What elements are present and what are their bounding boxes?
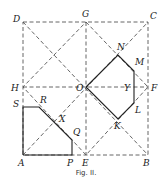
label-Y: Y: [124, 83, 131, 93]
label-C: C: [150, 11, 157, 21]
label-E: E: [81, 158, 89, 168]
label-O: O: [76, 83, 84, 93]
label-F: F: [150, 83, 158, 93]
label-R: R: [39, 95, 47, 105]
label-N: N: [116, 42, 126, 52]
label-L: L: [134, 105, 141, 115]
figure-caption: Fig. II.: [76, 169, 97, 177]
label-G: G: [82, 9, 89, 19]
label-Q: Q: [73, 127, 81, 137]
label-K: K: [113, 121, 122, 131]
label-D: D: [12, 14, 20, 24]
label-H: H: [10, 83, 19, 93]
label-P: P: [66, 158, 74, 168]
label-X: X: [58, 114, 66, 124]
label-B: B: [142, 158, 150, 168]
geometry-figure: D G C N M H O Y F S R L X Q K A P E B Fi…: [0, 0, 168, 180]
label-M: M: [134, 57, 145, 67]
label-A: A: [17, 158, 25, 168]
label-S: S: [13, 99, 19, 109]
